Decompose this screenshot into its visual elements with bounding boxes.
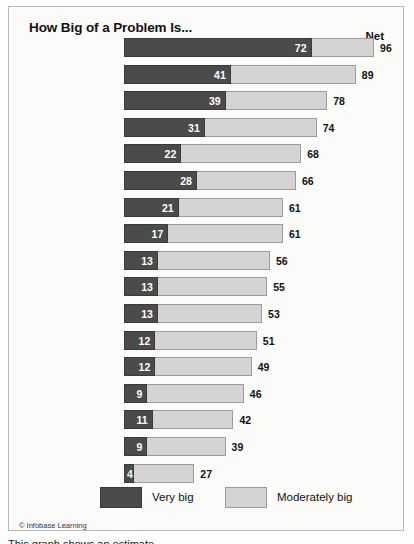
bar-segment-very-big: 72 (124, 38, 312, 57)
bar-value-net: 27 (200, 468, 212, 480)
bar-value-net: 89 (362, 69, 374, 81)
stacked-bar: 21 (124, 198, 283, 217)
stacked-bar: 31 (124, 118, 317, 137)
bar-value-very-big: 13 (141, 308, 153, 320)
bar-value-net: 74 (323, 122, 335, 134)
bar-value-net: 46 (250, 388, 262, 400)
stacked-bar: 22 (124, 144, 301, 163)
bar-segment-very-big: 9 (124, 384, 147, 403)
light-swatch (225, 487, 267, 508)
bar-value-very-big: 31 (188, 122, 200, 134)
bar-segment-very-big: 21 (124, 198, 179, 217)
bar-value-very-big: 12 (139, 335, 151, 347)
bar-value-net: 49 (258, 361, 270, 373)
bar-value-net: 68 (307, 148, 319, 160)
bar-value-net: 61 (289, 228, 301, 240)
bar-chart-plot: Rising prices7296Rich/poor gap4189Corrup… (0, 0, 414, 544)
stacked-bar: 72 (124, 38, 374, 57)
stacked-bar: 39 (124, 91, 327, 110)
legend-label: Very big (152, 491, 194, 503)
copyright-credit: © Infobase Learning (19, 521, 87, 530)
chart-legend: Very bigModerately big (0, 487, 414, 513)
bar-value-very-big: 13 (141, 255, 153, 267)
bar-value-net: 66 (302, 175, 314, 187)
stacked-bar: 28 (124, 171, 296, 190)
stacked-bar: 9 (124, 384, 244, 403)
bar-segment-very-big: 12 (124, 357, 155, 376)
bar-segment-very-big: 39 (124, 91, 226, 110)
stacked-bar: 13 (124, 277, 267, 296)
bar-segment-very-big: 41 (124, 65, 231, 84)
stacked-bar: 17 (124, 224, 283, 243)
bar-segment-very-big: 22 (124, 144, 181, 163)
stacked-bar: 13 (124, 251, 270, 270)
bar-value-very-big: 41 (214, 69, 226, 81)
bar-value-very-big: 21 (162, 202, 174, 214)
bar-value-net: 78 (333, 95, 345, 107)
bar-segment-very-big: 13 (124, 277, 158, 296)
bar-value-net: 42 (239, 414, 251, 426)
dark-swatch (100, 487, 142, 508)
bar-value-very-big: 4 (127, 468, 133, 480)
bar-segment-very-big: 12 (124, 331, 155, 350)
stacked-bar: 12 (124, 357, 252, 376)
stacked-bar: 9 (124, 437, 226, 456)
bar-value-very-big: 39 (209, 95, 221, 107)
bar-segment-very-big: 13 (124, 251, 158, 270)
bar-value-net: 96 (380, 42, 392, 54)
bar-segment-very-big: 4 (124, 464, 134, 483)
bar-segment-very-big: 28 (124, 171, 197, 190)
bar-value-very-big: 12 (139, 361, 151, 373)
bar-segment-very-big: 11 (124, 410, 153, 429)
bar-value-very-big: 72 (295, 42, 307, 54)
bar-segment-very-big: 31 (124, 118, 205, 137)
bar-value-very-big: 9 (137, 388, 143, 400)
bar-value-net: 61 (289, 202, 301, 214)
bar-value-net: 55 (273, 281, 285, 293)
bar-value-very-big: 9 (137, 441, 143, 453)
bar-value-very-big: 17 (152, 228, 164, 240)
bar-value-net: 53 (268, 308, 280, 320)
bar-value-very-big: 22 (165, 148, 177, 160)
bar-segment-moderately-big (124, 464, 194, 483)
bar-value-very-big: 28 (180, 175, 192, 187)
bar-value-net: 51 (263, 335, 275, 347)
stacked-bar: 11 (124, 410, 233, 429)
caption-cutoff: This graph shows an estimate (8, 538, 154, 544)
bar-segment-very-big: 17 (124, 224, 168, 243)
stacked-bar: 13 (124, 304, 262, 323)
bar-segment-very-big: 13 (124, 304, 158, 323)
stacked-bar: 41 (124, 65, 356, 84)
bar-value-very-big: 11 (137, 414, 148, 426)
legend-label: Moderately big (277, 491, 352, 503)
bar-value-net: 56 (276, 255, 288, 267)
bar-segment-very-big: 9 (124, 437, 147, 456)
chart-screenshot: How Big of a Problem Is... Net Rising pr… (0, 0, 414, 544)
bar-value-very-big: 13 (141, 281, 153, 293)
stacked-bar: 12 (124, 331, 257, 350)
stacked-bar: 4 (124, 464, 194, 483)
bar-value-net: 39 (232, 441, 244, 453)
